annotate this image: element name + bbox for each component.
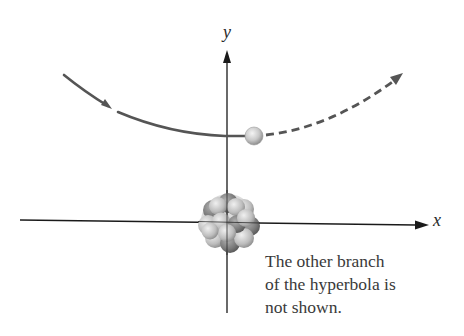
trajectory-solid — [64, 75, 248, 136]
caption-line-2: of the hyperbola is — [265, 273, 455, 296]
y-axis-label: y — [223, 22, 231, 43]
caption-note: The other branch of the hyperbola is not… — [265, 250, 455, 319]
x-axis-label: x — [433, 210, 441, 231]
caption-line-1: The other branch — [265, 250, 455, 273]
x-axis-arrowhead-icon — [415, 221, 429, 230]
y-axis-arrowhead-icon — [223, 50, 231, 63]
hyperbola-diagram: y x The other branch of the hyperbola is… — [0, 0, 464, 336]
caption-line-3: not shown. — [265, 296, 455, 319]
trajectory-dashed — [266, 73, 403, 135]
y-axis — [223, 50, 231, 313]
direction-arrowhead-icon — [101, 99, 112, 109]
particle-ball — [245, 127, 263, 145]
